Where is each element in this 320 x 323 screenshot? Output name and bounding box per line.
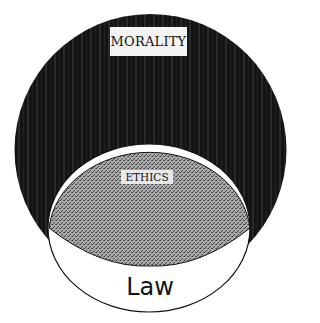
- morality-label: MORALITY: [110, 27, 187, 56]
- ethics-label: ETHICS: [121, 170, 173, 184]
- law-label: Law: [110, 272, 190, 302]
